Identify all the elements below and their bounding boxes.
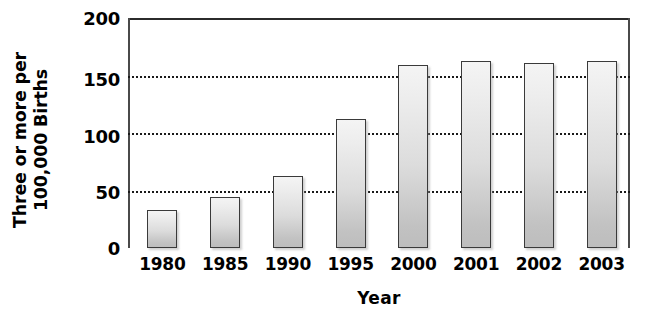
bar-chart: Three or more per 100,000 Births 200 150… [0,0,658,326]
bar-1985 [210,197,240,248]
x-tick-2000: 2000 [382,254,445,274]
bar-2002 [524,63,554,248]
bar-1980 [147,210,177,248]
bar-2001 [461,61,491,248]
y-axis-title-line-2: 100,000 Births [31,52,52,228]
bar-1990 [273,176,303,248]
bar-2000 [398,65,428,248]
y-tick-150: 150 [64,69,120,90]
x-axis-title: Year [128,288,630,308]
x-tick-2001: 2001 [445,254,508,274]
y-axis-title-line-1: Three or more per [10,52,31,228]
y-tick-200: 200 [64,8,120,29]
x-tick-1980: 1980 [131,254,194,274]
bar-2003 [587,61,617,248]
x-tick-2002: 2002 [508,254,571,274]
x-tick-2003: 2003 [570,254,633,274]
x-axis-tick-labels: 19801985199019952000200120022003 [128,254,630,280]
plot-area [128,18,630,248]
y-tick-0: 0 [64,238,120,259]
bar-1995 [336,119,366,248]
y-axis-tick-labels: 200 150 100 50 0 [64,0,120,326]
x-tick-1985: 1985 [194,254,257,274]
y-tick-50: 50 [64,182,120,203]
x-tick-1995: 1995 [319,254,382,274]
x-tick-1990: 1990 [257,254,320,274]
y-tick-100: 100 [64,126,120,147]
y-axis-title: Three or more per 100,000 Births [0,0,62,280]
bars-layer [128,18,630,248]
